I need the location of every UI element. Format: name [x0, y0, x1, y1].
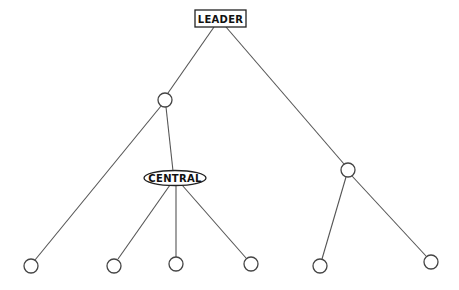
- edge-n1-central: [166, 107, 173, 171]
- leaf-nodes: [24, 255, 438, 273]
- edge-n1-l1: [35, 106, 161, 260]
- central-node: CENTRAL: [144, 171, 206, 186]
- leader-label: LEADER: [198, 14, 244, 25]
- leaf-circle-2: [107, 259, 121, 273]
- leaf-circle-3: [169, 257, 183, 271]
- edge-central-l4: [182, 185, 246, 258]
- node-circle-mid-left: [158, 93, 172, 107]
- leaf-circle-1: [24, 259, 38, 273]
- edges: [35, 27, 426, 260]
- edge-central-l2: [118, 185, 170, 259]
- edge-leader-n1: [168, 27, 214, 93]
- leaf-circle-5: [313, 259, 327, 273]
- edge-n2-l5: [322, 177, 346, 259]
- edge-leader-n2: [226, 27, 344, 164]
- node-circle-mid-right: [341, 163, 355, 177]
- tree-diagram: LEADER CENTRAL: [0, 0, 459, 290]
- leader-node: LEADER: [195, 10, 246, 27]
- leaf-circle-4: [244, 257, 258, 271]
- leaf-circle-6: [424, 255, 438, 269]
- edge-n2-l6: [352, 176, 426, 256]
- central-label: CENTRAL: [148, 173, 202, 184]
